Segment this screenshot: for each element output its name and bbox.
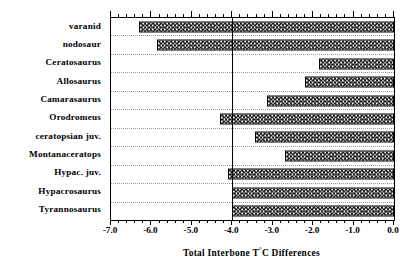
bars-container [111,18,394,220]
bar-hypacrosaurus [232,187,394,198]
bar-camarasaurus [267,95,394,106]
x-axis-tick-label: -2.0 [305,226,320,235]
x-axis-tick-label: -4.0 [224,226,239,235]
x-axis-tick-label: -5.0 [184,226,199,235]
bar-row [111,55,394,73]
bar-row [111,166,394,184]
y-axis-label: Montanaceratops [0,146,106,164]
y-axis-label: Hypacrosaurus [0,182,106,200]
bar-row [111,184,394,202]
y-axis-label: nodosaur [0,35,106,53]
y-axis-label: Tyrannosaurus [0,201,106,219]
x-axis-title-prefix: Total Interbone T [183,248,259,258]
plot-area [110,17,395,221]
x-axis-tick-label: -7.0 [103,226,118,235]
y-axis-label: Allosaurus [0,72,106,90]
y-axis-label: Orodromeus [0,109,106,127]
y-axis-label: Ceratosaurus [0,54,106,72]
x-axis-tick-label: -1.0 [345,226,360,235]
bar-varanid [139,21,394,32]
bar-ceratopsian-juv [255,132,394,143]
bar-nodosaur [157,40,394,51]
bar-row [111,110,394,128]
y-axis-label: Hypac. juv. [0,164,106,182]
x-axis-tick-labels: -7.0-6.0-5.0-4.0-3.0-2.0-1.00.0 [110,226,393,239]
x-axis-tick-label: 0.0 [387,226,398,235]
x-axis-title: Total Interbone T°C Differences [110,246,393,258]
x-axis-tick-label: -3.0 [264,226,279,235]
bar-row [111,18,394,36]
y-axis-label: varanid [0,17,106,35]
bar-row [111,129,394,147]
bar-orodromeus [220,113,394,124]
y-axis-category-labels: varanid nodosaur Ceratosaurus Allosaurus… [0,17,106,219]
bar-montanaceratops [285,150,394,161]
chart-figure: varanid nodosaur Ceratosaurus Allosaurus… [0,0,412,271]
bar-allosaurus [305,77,394,88]
y-axis-label: ceratopsian juv. [0,127,106,145]
x-axis-title-suffix: C Differences [262,248,320,258]
bar-row [111,92,394,110]
x-axis-tick-label: -6.0 [143,226,158,235]
bar-row [111,36,394,54]
reference-line [232,18,233,220]
bar-row [111,73,394,91]
y-axis-label: Camarasaurus [0,90,106,108]
bar-ceratosaurus [319,58,394,69]
bar-row [111,203,394,220]
bar-hypac-juv [228,169,394,180]
bar-tyrannosaurus [232,206,394,217]
bar-row [111,147,394,165]
